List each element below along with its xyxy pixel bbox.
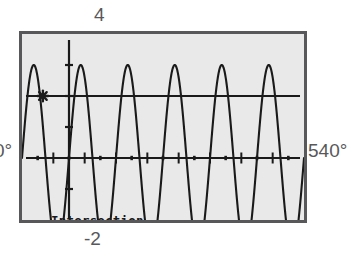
y-min-label: -2 [84, 228, 101, 250]
readout-title: Intersection [51, 214, 144, 220]
intersection-marker [37, 91, 48, 102]
graph-canvas: Intersection X=40 L Y=2 [22, 34, 304, 220]
calculator-screen-frame: Intersection X=40 L Y=2 [19, 31, 307, 223]
calculator-screenshot: 4 -2 0° 540° Intersection X=40 L Y=2 [0, 0, 352, 260]
y-max-label: 4 [94, 4, 105, 26]
series-sine-curve [22, 65, 304, 220]
x-max-label: 540° [308, 140, 347, 162]
x-min-label: 0° [0, 140, 12, 162]
plot-svg [22, 34, 304, 220]
